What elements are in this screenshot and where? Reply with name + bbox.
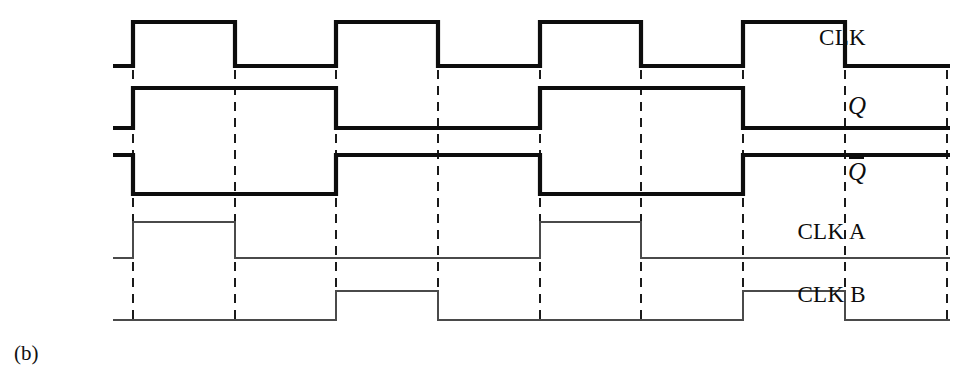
timing-waveform-canvas: [0, 0, 979, 382]
signal-label-q-bar-text: Q: [848, 158, 866, 185]
waveform-traces: [113, 22, 950, 320]
signal-label-q: Q: [848, 93, 866, 118]
signal-label-clk: CLK: [819, 26, 866, 49]
signal-label-clk-b: CLK B: [797, 283, 866, 306]
signal-label-clk-a-text: CLK A: [797, 219, 866, 244]
timing-diagram-figure: CLK Q Q CLK A CLK B (b): [0, 0, 979, 382]
waveform-qbar: [113, 155, 950, 194]
overbar-glyph: Q: [848, 157, 866, 184]
figure-caption: (b): [14, 341, 39, 366]
signal-label-clk-a: CLK A: [797, 220, 866, 243]
waveform-q: [113, 88, 950, 128]
signal-label-clk-b-text: CLK B: [797, 282, 866, 307]
signal-label-clk-text: CLK: [819, 25, 866, 50]
signal-label-q-text: Q: [848, 92, 866, 119]
signal-label-q-bar: Q: [848, 157, 866, 184]
